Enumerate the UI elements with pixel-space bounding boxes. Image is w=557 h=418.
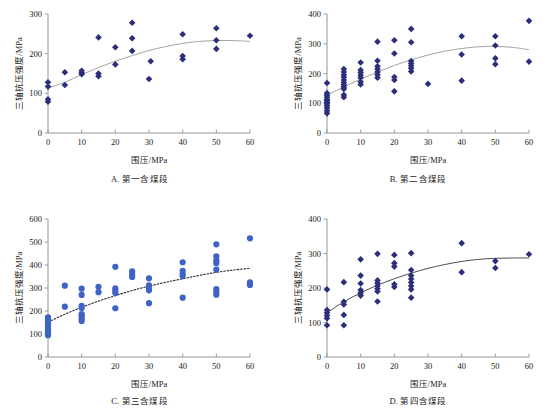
svg-text:200: 200 [29, 49, 42, 59]
y-axis-title: 三轴抗压强度/MPa [14, 37, 24, 110]
data-point [112, 264, 118, 270]
data-point [458, 77, 465, 84]
data-point [526, 58, 533, 65]
data-point [129, 35, 136, 42]
data-point [408, 39, 415, 46]
data-point [341, 279, 348, 286]
x-axis-title: 围压/MPa [410, 155, 447, 165]
svg-text:50: 50 [212, 361, 221, 371]
data-point [79, 311, 85, 317]
trend-line [327, 258, 529, 313]
data-point [95, 34, 102, 41]
svg-text:0: 0 [46, 137, 50, 147]
panel-c: 01002003004005006000102030405060围压/MPa三轴… [0, 209, 279, 418]
svg-text:0: 0 [317, 352, 321, 362]
data-point [526, 251, 533, 258]
svg-text:600: 600 [29, 214, 42, 224]
data-point [391, 37, 398, 44]
data-point [213, 241, 219, 247]
data-point [62, 283, 68, 289]
data-point [45, 79, 52, 86]
data-point [324, 322, 331, 329]
data-point [408, 26, 415, 33]
svg-text:300: 300 [29, 283, 42, 293]
trend-line [327, 46, 529, 95]
svg-text:60: 60 [246, 137, 255, 147]
svg-text:20: 20 [111, 137, 120, 147]
svg-text:10: 10 [356, 361, 365, 371]
data-point [408, 250, 415, 257]
data-point [213, 25, 220, 32]
svg-text:50: 50 [491, 137, 500, 147]
svg-text:30: 30 [145, 361, 154, 371]
data-point [247, 235, 253, 241]
data-point [146, 275, 152, 281]
data-point [213, 46, 220, 53]
svg-text:0: 0 [46, 361, 50, 371]
svg-text:100: 100 [308, 318, 321, 328]
data-point [112, 285, 118, 291]
x-axis-title: 围压/MPa [131, 155, 168, 165]
svg-text:100: 100 [29, 329, 42, 339]
data-point [391, 88, 398, 95]
panel-a-caption: A. 第一含煤段 [0, 172, 279, 184]
data-point [341, 322, 348, 329]
data-point [213, 267, 219, 273]
svg-text:60: 60 [525, 137, 534, 147]
y-axis-title: 三轴抗压强度/MPa [293, 37, 303, 110]
figure-triaxial-compressive-strength: 01002003000102030405060围压/MPa三轴抗压强度/MPa … [0, 0, 557, 418]
data-point [146, 300, 152, 306]
svg-text:40: 40 [457, 361, 466, 371]
svg-text:60: 60 [246, 361, 255, 371]
svg-text:300: 300 [29, 9, 42, 19]
svg-text:20: 20 [390, 137, 399, 147]
y-axis-title: 三轴抗压强度/MPa [293, 252, 303, 325]
data-point [357, 256, 364, 263]
data-point [129, 48, 136, 55]
data-point [129, 19, 136, 26]
data-point [458, 269, 465, 276]
panel-d-caption: D. 第四含煤段 [279, 394, 557, 406]
svg-text:400: 400 [308, 214, 321, 224]
data-point [147, 58, 154, 65]
data-point [112, 44, 119, 51]
data-point [146, 282, 152, 288]
data-point [179, 31, 186, 38]
svg-text:20: 20 [111, 361, 120, 371]
panel-c-caption: C. 第三含煤段 [0, 394, 279, 406]
data-point [374, 298, 381, 305]
data-point [45, 314, 51, 320]
data-point [180, 259, 186, 265]
data-point [408, 294, 415, 301]
svg-text:200: 200 [308, 283, 321, 293]
data-point [146, 76, 153, 83]
data-point [425, 81, 432, 88]
panel-d-plot: 01002003004000102030405060围压/MPa三轴抗压强度/M… [279, 209, 557, 418]
x-axis-title: 围压/MPa [410, 379, 447, 389]
data-point [324, 286, 331, 293]
svg-text:40: 40 [178, 361, 187, 371]
svg-text:20: 20 [390, 361, 399, 371]
data-point [374, 251, 381, 258]
data-point [341, 312, 348, 319]
svg-text:30: 30 [424, 361, 433, 371]
data-point [492, 42, 499, 49]
x-axis-title: 围压/MPa [131, 379, 168, 389]
svg-text:500: 500 [29, 237, 42, 247]
svg-text:30: 30 [424, 137, 433, 147]
data-point [391, 260, 398, 267]
svg-text:50: 50 [491, 361, 500, 371]
data-point [213, 253, 219, 259]
data-point [357, 280, 364, 287]
svg-text:300: 300 [308, 39, 321, 49]
svg-text:0: 0 [325, 137, 329, 147]
svg-text:0: 0 [317, 128, 321, 138]
data-point [458, 51, 465, 58]
data-point [374, 38, 381, 45]
data-point [492, 33, 499, 40]
data-point [247, 279, 253, 285]
svg-text:400: 400 [308, 9, 321, 19]
svg-text:10: 10 [77, 361, 86, 371]
data-point [180, 268, 186, 274]
data-point [79, 292, 85, 298]
